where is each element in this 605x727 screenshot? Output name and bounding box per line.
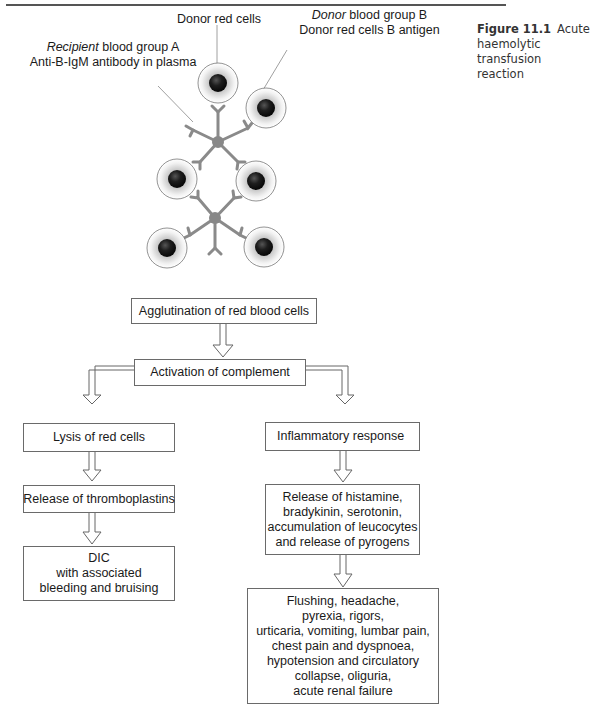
- box-lysis: Lysis of red cells: [23, 423, 175, 452]
- box-mediator-release: Release of histamine, bradykinin, seroto…: [265, 484, 420, 555]
- box-dic: DIC with associated bleeding and bruisin…: [23, 546, 175, 601]
- box-complement: Activation of complement: [134, 359, 306, 386]
- arrow-histamine-to-symptoms: [334, 554, 352, 587]
- box-agglutination: Agglutination of red blood cells: [131, 298, 317, 324]
- arrow-inflammatory-to-histamine: [334, 450, 352, 482]
- arrow-complement-to-inflammatory: [306, 366, 354, 404]
- box-thromboplastins: Release of thromboplastins: [23, 485, 175, 513]
- arrow-complement-to-lysis: [83, 366, 135, 404]
- arrow-lysis-to-thromboplastins: [83, 451, 101, 481]
- arrow-agglutination-to-complement: [213, 322, 233, 357]
- arrow-thromboplastins-to-dic: [83, 512, 101, 544]
- box-clinical-symptoms: Flushing, headache, pyrexia, rigors, urt…: [247, 588, 439, 704]
- box-inflammatory: Inflammatory response: [265, 422, 420, 451]
